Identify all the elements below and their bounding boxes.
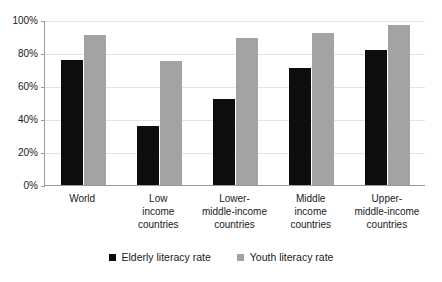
bar-chart: 0%20%40%60%80%100% WorldLowincomecountri… xyxy=(0,0,442,282)
bar[interactable] xyxy=(84,35,106,185)
y-tick-label: 60% xyxy=(18,82,38,92)
y-tick-label: 80% xyxy=(18,49,38,59)
bar-group xyxy=(121,21,197,185)
legend-item[interactable]: Youth literacy rate xyxy=(237,252,334,263)
bar-group xyxy=(45,21,121,185)
bar[interactable] xyxy=(365,50,387,185)
x-axis-label-line: income xyxy=(120,205,196,218)
bar-group xyxy=(350,21,426,185)
x-axis-label-line: countries xyxy=(349,218,425,231)
x-axis-label-line: middle-income xyxy=(349,205,425,218)
x-axis-label-line: World xyxy=(44,192,120,205)
y-tick-label: 40% xyxy=(18,115,38,125)
plot-area: 0%20%40%60%80%100% xyxy=(44,21,425,186)
x-axis-label: Upper-middle-incomecountries xyxy=(349,192,425,231)
legend-swatch-icon xyxy=(237,254,244,261)
bar[interactable] xyxy=(160,61,182,185)
chart-legend: Elderly literacy rateYouth literacy rate xyxy=(0,252,442,263)
x-axis-label: Middleincomecountries xyxy=(273,192,349,231)
x-axis-label-line: countries xyxy=(196,218,272,231)
x-axis-label-line: income xyxy=(273,205,349,218)
x-axis-label: Lower-middle-incomecountries xyxy=(196,192,272,231)
bar[interactable] xyxy=(289,68,311,185)
legend-label: Youth literacy rate xyxy=(250,252,334,263)
x-axis-label-line: Upper- xyxy=(349,192,425,205)
x-axis-label-line: Lower- xyxy=(196,192,272,205)
x-axis-label-line: countries xyxy=(120,218,196,231)
x-axis-label-line: Low xyxy=(120,192,196,205)
bar[interactable] xyxy=(213,99,235,185)
bar-group xyxy=(197,21,273,185)
y-tick-label: 100% xyxy=(12,16,38,26)
y-tick-label: 20% xyxy=(18,148,38,158)
x-axis-label-line: countries xyxy=(273,218,349,231)
x-axis-label-line: Middle xyxy=(273,192,349,205)
bar[interactable] xyxy=(137,126,159,185)
bar-group xyxy=(274,21,350,185)
x-axis-label-line: middle-income xyxy=(196,205,272,218)
legend-item[interactable]: Elderly literacy rate xyxy=(109,252,211,263)
legend-swatch-icon xyxy=(109,254,116,261)
x-axis-label: World xyxy=(44,192,120,205)
bar[interactable] xyxy=(236,38,258,185)
bar[interactable] xyxy=(388,25,410,185)
x-axis-label: Lowincomecountries xyxy=(120,192,196,231)
bar[interactable] xyxy=(61,60,83,185)
y-tick-mark xyxy=(41,186,45,187)
legend-label: Elderly literacy rate xyxy=(122,252,211,263)
y-tick-label: 0% xyxy=(24,181,38,191)
bar[interactable] xyxy=(312,33,334,185)
